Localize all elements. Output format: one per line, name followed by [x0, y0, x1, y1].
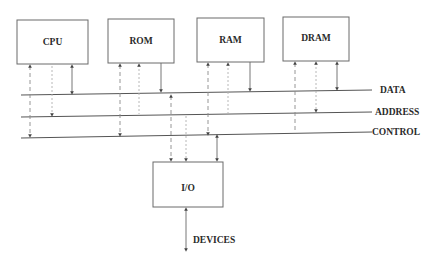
ram-connections: [208, 62, 250, 134]
cpu-box: CPU: [17, 20, 88, 64]
rom-connections: [120, 63, 161, 135]
dram-connections: [295, 63, 337, 133]
io-box: I/O: [153, 162, 223, 207]
ram-box: RAM: [197, 18, 264, 62]
cpu-label: CPU: [43, 37, 63, 47]
rom-label: ROM: [129, 36, 152, 46]
control-bus: [21, 132, 372, 138]
data-bus: [21, 90, 372, 95]
data-bus-label: DATA: [380, 85, 406, 95]
dram-box: DRAM: [283, 17, 349, 61]
control-bus-label: CONTROL: [372, 127, 420, 137]
rom-box: ROM: [108, 19, 174, 63]
cpu-connections: [30, 66, 72, 136]
devices-label: DEVICES: [193, 235, 235, 245]
io-label: I/O: [181, 183, 195, 193]
ram-label: RAM: [219, 35, 242, 45]
address-bus-label: ADDRESS: [375, 107, 419, 117]
address-bus: [21, 112, 372, 117]
dram-label: DRAM: [301, 33, 331, 43]
system-bus-diagram: CPU ROM RAM DRAM I/O DATA ADDRESS CONTRO…: [0, 0, 436, 262]
